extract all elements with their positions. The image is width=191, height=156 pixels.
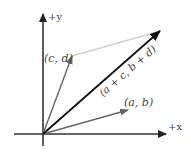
vector-sum-label: (a + c, b + d) xyxy=(96,43,158,99)
vector-c-d-label: (c, d) xyxy=(44,52,73,65)
vector-sum xyxy=(43,31,160,134)
x-axis-label: +x xyxy=(168,121,182,132)
vector-addition-diagram: +y +x (c, d) (a, b) (a + c, b + d) xyxy=(0,0,191,156)
vector-a-b-label: (a, b) xyxy=(124,96,153,109)
y-axis-label: +y xyxy=(48,11,62,22)
